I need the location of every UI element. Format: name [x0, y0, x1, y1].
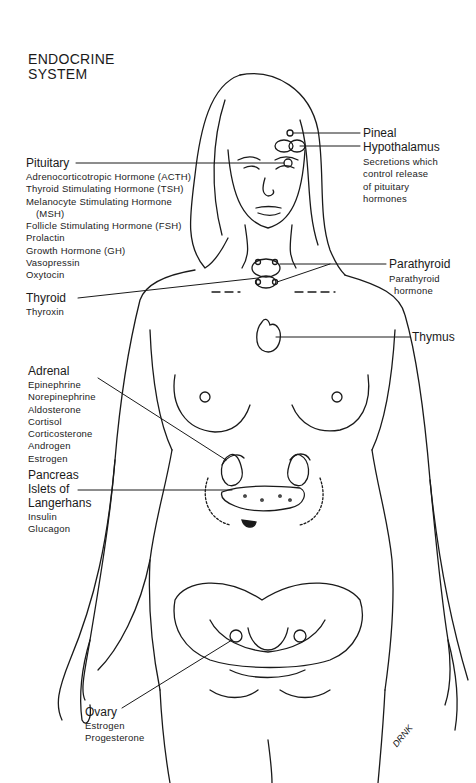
ovary-label: Ovary [85, 705, 144, 719]
thymus-gland [257, 319, 281, 352]
parathyroid-leader-2 [277, 264, 330, 282]
pancreas-label: Pancreas [28, 468, 91, 482]
hormone-item: Progesterone [85, 732, 144, 744]
hair-outline [191, 75, 240, 268]
adrenal-label: Adrenal [28, 364, 96, 378]
hormone-item: Estrogen [28, 453, 96, 465]
pituitary-label: Pituitary [26, 156, 191, 170]
title-line-1: ENDOCRINE [28, 52, 115, 67]
diagram-title: ENDOCRINE SYSTEM [28, 52, 115, 82]
ovary-leader [122, 640, 232, 708]
hormone-item: Estrogen [85, 720, 144, 732]
hormone-item: Epinephrine [28, 379, 96, 391]
hormone-item: Cortisol [28, 416, 96, 428]
hormone-item: Glucagon [28, 523, 91, 535]
pelvis [174, 583, 362, 667]
hormone-item: hormone [389, 285, 450, 297]
hypothalamus-desc: of pituitary [363, 181, 440, 193]
ovary-label-group: Ovary Estrogen Progesterone [85, 705, 144, 745]
hormone-item: Adrenocorticotropic Hormone (ACTH) [26, 171, 191, 183]
hormone-item: Androgen [28, 440, 96, 452]
parathyroid-label-group: Parathyroid Parathyroid hormone [389, 257, 450, 298]
langerhans-label: Langerhans [28, 496, 91, 510]
hypothalamus-label: Hypothalamus [363, 140, 440, 154]
adrenal-label-group: Adrenal Epinephrine Norepinephrine Aldos… [28, 364, 96, 465]
thyroid-label-group: Thyroid Thyroxin [26, 291, 66, 318]
thyroid-gland [252, 259, 280, 288]
title-line-2: SYSTEM [28, 67, 115, 82]
pineal-label: Pineal [363, 126, 396, 140]
hormone-item: Aldosterone [28, 404, 96, 416]
hormone-item: Parathyroid [389, 273, 450, 285]
uterus [248, 628, 288, 650]
pituitary-label-group: Pituitary Adrenocorticotropic Hormone (A… [26, 156, 191, 282]
hypothalamus-desc: control release [363, 168, 440, 180]
hormone-item: Follicle Stimulating Hormone (FSH) [26, 220, 191, 232]
hypothalamus-desc: Secretions which [363, 156, 440, 168]
hormone-item: Growth Hormone (GH) [26, 245, 191, 257]
thymus-label: Thymus [412, 330, 455, 344]
hormone-item: Corticosterone [28, 428, 96, 440]
hormone-item: Vasopressin [26, 257, 191, 269]
hormone-item: Oxytocin [26, 269, 191, 281]
hormone-item: Thyroxin [26, 306, 66, 318]
torso-outline [83, 270, 195, 700]
pineal-gland [287, 130, 293, 136]
thyroid-label: Thyroid [26, 291, 66, 305]
hypothalamus-label-group: Hypothalamus Secretions which control re… [363, 140, 440, 205]
hormone-item: Thyroid Stimulating Hormone (TSH) [26, 183, 191, 195]
hormone-item: Melanocyte Stimulating Hormone [26, 196, 191, 208]
pancreas-label-group: Pancreas Islets of Langerhans Insulin Gl… [28, 468, 91, 536]
right-ovary [294, 630, 306, 642]
islets-label: Islets of [28, 482, 91, 496]
hypothalamus-desc: hormones [363, 193, 440, 205]
hormone-item: Norepinephrine [28, 391, 96, 403]
parathyroid-label: Parathyroid [389, 257, 450, 271]
hormone-item: Prolactin [26, 232, 191, 244]
hormone-item: (MSH) [26, 208, 191, 220]
hormone-item: Insulin [28, 511, 91, 523]
adrenal-leader [98, 378, 226, 460]
face-outline [228, 150, 305, 228]
